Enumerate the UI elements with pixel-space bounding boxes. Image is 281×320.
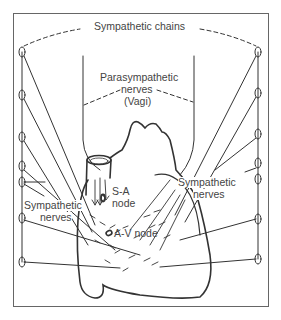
- label-av-node: A-V node: [114, 228, 158, 239]
- label-sympathetic-nerves-right: Sympathetic: [178, 177, 236, 188]
- label-sympathetic-nerves-left: Sympathetic: [24, 200, 82, 211]
- sympathetic-chain-arc-right: [200, 29, 256, 46]
- label-vagi: (Vagi): [124, 96, 151, 107]
- sympathetic-chain-arc-left: [24, 29, 80, 46]
- av-node: [105, 230, 112, 237]
- heart-innervation-diagram: [0, 0, 281, 320]
- label-sa-node: S-A: [112, 186, 130, 197]
- left-vagus: [83, 56, 100, 170]
- label-parasympathetic-nerves: nerves: [121, 84, 153, 95]
- label-sympathetic-nerves-right-2: nerves: [193, 189, 225, 200]
- label-sa-node-word: node: [112, 198, 135, 209]
- parasympathetic-dashed-right: [157, 90, 193, 102]
- parasympathetic-dashed-left: [84, 90, 120, 105]
- label-sympathetic-nerves-left-2: nerves: [40, 212, 72, 223]
- label-parasympathetic: Parasympathetic: [100, 72, 178, 83]
- heart-outline: [77, 122, 211, 298]
- label-sympathetic-chains: Sympathetic chains: [92, 21, 187, 32]
- cardiac-nerve-branches: [90, 178, 185, 271]
- right-vagus: [180, 56, 194, 175]
